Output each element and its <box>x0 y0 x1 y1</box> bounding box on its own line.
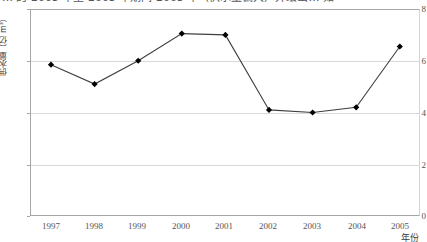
y-tick-mark-4 <box>27 113 30 114</box>
x-tick-label-2000: 2000 <box>161 221 201 231</box>
plot-area <box>30 9 420 216</box>
y-axis-title: 供水量（亿 m³） <box>0 14 13 76</box>
x-tick-label-1999: 1999 <box>117 221 157 231</box>
x-tick-label-2002: 2002 <box>248 221 288 231</box>
y-tick-label-2: 2 <box>400 160 426 170</box>
y-tick-mark-8 <box>27 9 30 10</box>
x-tick-label-2005: 2005 <box>380 221 420 231</box>
gridline-2 <box>31 165 419 166</box>
y-tick-label-4: 4 <box>400 108 426 118</box>
x-tick-label-2004: 2004 <box>337 221 377 231</box>
y-tick-mark-6 <box>27 61 30 62</box>
y-tick-label-8: 8 <box>400 4 426 14</box>
y-tick-mark-2 <box>27 165 30 166</box>
y-tick-mark-0 <box>27 216 30 217</box>
x-tick-label-2003: 2003 <box>292 221 332 231</box>
x-tick-label-1997: 1997 <box>31 221 71 231</box>
y-tick-label-6: 6 <box>400 56 426 66</box>
x-tick-label-2001: 2001 <box>204 221 244 231</box>
x-axis-title: 年份 <box>393 231 427 242</box>
x-tick-label-1998: 1998 <box>74 221 114 231</box>
y-tick-label-0: 0 <box>400 211 426 221</box>
gridline-4 <box>31 113 419 114</box>
gridline-6 <box>31 61 419 62</box>
